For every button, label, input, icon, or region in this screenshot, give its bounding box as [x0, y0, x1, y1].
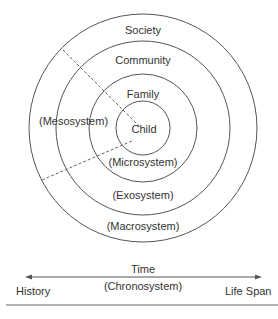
macrosystem-label: (Macrosystem) — [107, 221, 180, 232]
family-label: Family — [127, 89, 159, 100]
history-label: History — [16, 286, 50, 297]
life-span-label: Life Span — [225, 286, 271, 297]
exosystem-label: (Exosystem) — [112, 190, 173, 201]
society-label: Society — [125, 25, 161, 36]
time-label: Time — [131, 264, 155, 275]
community-label: Community — [115, 55, 171, 66]
child-label: Child — [131, 124, 156, 135]
microsystem-label: (Microsystem) — [108, 157, 177, 168]
chronosystem-label: (Chronosystem) — [104, 281, 182, 292]
mesosystem-label: (Mesosystem) — [39, 116, 108, 127]
arrow-right-icon — [255, 275, 262, 280]
time-arrow — [25, 275, 262, 280]
arrow-left-icon — [25, 275, 32, 280]
